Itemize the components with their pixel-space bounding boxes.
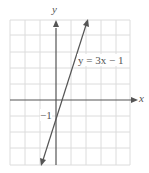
y-axis-label: y bbox=[52, 3, 57, 15]
x-axis-label: x bbox=[139, 92, 144, 104]
graph-line bbox=[40, 19, 89, 166]
x-axis bbox=[10, 97, 138, 103]
x-axis-arrow-icon bbox=[131, 97, 138, 103]
equation-label: y = 3x − 1 bbox=[77, 54, 124, 66]
y-axis bbox=[53, 20, 59, 165]
y-axis-arrow-icon bbox=[53, 20, 59, 27]
graph-canvas bbox=[0, 0, 149, 173]
grid bbox=[10, 20, 130, 165]
intercept-label: −1 bbox=[40, 109, 52, 121]
